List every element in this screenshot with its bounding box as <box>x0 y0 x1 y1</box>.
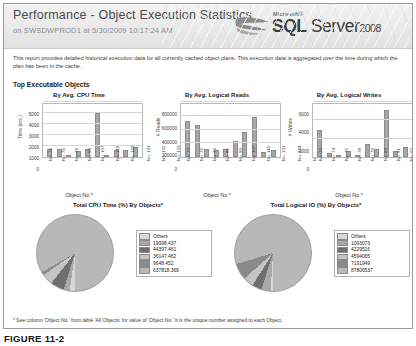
gridline <box>43 145 142 146</box>
legend-swatch <box>337 247 348 254</box>
footnote: * See column 'Object No.' from table 'Al… <box>13 317 405 323</box>
chart-y-axis-ticks: 0200040006000 <box>282 103 311 159</box>
legend-label: 4594065 <box>351 254 370 259</box>
sql-server-2008-logo: Microsoft® SQL Server2008 <box>234 9 406 43</box>
report-subtitle: on SWSDWPROD1 at 5/30/2009 10:17:24 AM <box>13 26 173 35</box>
pie-graphic <box>36 214 114 292</box>
legend-item: 19998.437 <box>139 240 209 247</box>
gridline <box>313 138 412 139</box>
chart-x-axis-label: Object No.* <box>12 192 146 198</box>
gridline <box>181 115 280 116</box>
chart-title: By Avg. CPU Time <box>12 92 146 98</box>
gridline <box>181 101 280 102</box>
bar <box>204 149 209 157</box>
report-header: Performance - Object Execution Statistic… <box>4 4 412 49</box>
bar <box>66 155 71 157</box>
y-tick-label: 0 <box>306 167 309 172</box>
logo-year-text: 2008 <box>359 22 380 34</box>
chart-legend: Others19998.43744397.46136147.4629648.45… <box>136 230 212 277</box>
legend-label: Others <box>153 234 168 239</box>
legend-item: 1093073 <box>337 240 407 247</box>
gridline <box>181 129 280 130</box>
gridline <box>43 112 142 113</box>
legend-swatch <box>139 267 150 274</box>
y-tick-label: 4000 <box>299 130 309 135</box>
legend-item: 9648.452 <box>139 260 209 267</box>
legend-label: 87806537 <box>351 268 373 273</box>
bar <box>403 147 408 157</box>
chart-x-axis-label: Object No.* <box>282 192 413 198</box>
y-tick-label: 2000 <box>299 148 309 153</box>
legend-swatch <box>139 254 150 261</box>
bar <box>336 155 341 157</box>
y-tick-label: 0 <box>174 167 177 172</box>
pie-chart-row: Total CPU Time (%) By Objects* Others199… <box>10 202 412 308</box>
legend-item: Others <box>337 233 407 240</box>
logo-server-text: Server <box>306 16 359 36</box>
chart-title: Total CPU Time (%) By Objects* <box>18 202 218 208</box>
bar <box>374 149 379 157</box>
chart-y-axis-ticks: 010002000300040005000 <box>12 103 41 159</box>
legend-item: 637818.369 <box>139 267 209 274</box>
figure-caption: FIGURE 11-2 <box>4 333 64 344</box>
legend-label: 36147.462 <box>153 254 176 259</box>
y-tick-label: 6000 <box>299 112 309 117</box>
sql-server-wordmark: SQL Server2008 <box>272 16 381 37</box>
legend-item: 4229516 <box>337 247 407 254</box>
bar <box>95 113 100 157</box>
bar <box>104 155 109 157</box>
gridline <box>313 101 412 102</box>
legend-item: Others <box>139 233 209 240</box>
y-tick-label: 400000 <box>162 139 177 144</box>
logo-sql-text: SQL <box>272 16 306 36</box>
ssrs-report-frame: Performance - Object Execution Statistic… <box>3 3 413 329</box>
legend-label: 637818.369 <box>153 268 179 273</box>
legend-label: 7191949 <box>351 261 370 266</box>
chart-bars <box>183 104 278 157</box>
bar <box>271 150 276 157</box>
y-tick-label: 3000 <box>29 134 39 139</box>
legend-swatch <box>337 254 348 261</box>
legend-swatch <box>139 260 150 267</box>
sql-server-swoosh-icon <box>234 15 270 37</box>
legend-label: 9648.452 <box>153 261 173 266</box>
legend-item: 87806537 <box>337 267 407 274</box>
legend-swatch <box>337 267 348 274</box>
gridline <box>43 101 142 102</box>
page-title: Performance - Object Execution Statistic… <box>13 8 252 22</box>
bar <box>233 141 238 157</box>
y-tick-label: 800000 <box>162 112 177 117</box>
section-heading-top-executable-objects: Top Executable Objects <box>13 81 90 88</box>
legend-label: 19998.437 <box>153 241 176 246</box>
legend-swatch <box>139 240 150 247</box>
y-tick-label: 4000 <box>29 123 39 128</box>
y-tick-label: 1000 <box>29 156 39 161</box>
bar <box>242 132 247 157</box>
y-tick-label: 5000 <box>29 112 39 117</box>
y-tick-label: 200000 <box>162 153 177 158</box>
legend-item: 44397.461 <box>139 247 209 254</box>
gridline <box>181 142 280 143</box>
gridline <box>43 134 142 135</box>
legend-label: 44397.461 <box>153 247 176 252</box>
y-tick-label: 600000 <box>162 125 177 130</box>
y-tick-label: 0 <box>36 167 39 172</box>
legend-swatch <box>139 233 150 240</box>
bar <box>123 150 128 157</box>
bar-chart-row: By Avg. CPU Time Time (ms.) 010002000300… <box>10 92 412 198</box>
chart-x-axis-ticks: No. 70No. 76No. 79No. 82No. 90No. 107No.… <box>182 160 281 182</box>
y-tick-label: 2000 <box>29 145 39 150</box>
legend-label: 1093073 <box>351 241 370 246</box>
legend-swatch <box>337 233 348 240</box>
legend-swatch <box>337 240 348 247</box>
chart-plot-area <box>42 103 143 158</box>
legend-item: 36147.462 <box>139 253 209 260</box>
gridline <box>43 123 142 124</box>
chart-x-axis-label: Object No.* <box>150 192 284 198</box>
legend-swatch <box>139 247 150 254</box>
chart-x-axis-ticks: No. 70No. 74No. 75No. 78No. 79No. 82No. … <box>314 160 413 182</box>
legend-swatch <box>337 260 348 267</box>
chart-y-axis-ticks: 0200000400000600000800000 <box>150 103 179 159</box>
screenshot-page: Performance - Object Execution Statistic… <box>0 0 416 346</box>
legend-label: Others <box>351 234 366 239</box>
